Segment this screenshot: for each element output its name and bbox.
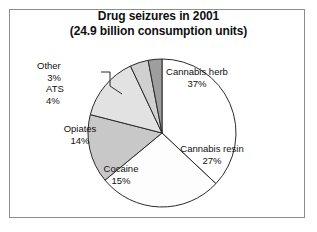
pie-label-cannabis-herb: Cannabis herb 37% — [162, 66, 232, 89]
pie-label-ats-name: ATS — [46, 83, 92, 95]
pie-label-opiates-value: 14% — [48, 135, 112, 147]
pie-label-cocaine: Cocaine 15% — [90, 163, 152, 186]
pie-label-opiates: Opiates 14% — [48, 123, 112, 146]
pie-label-cannabis-resin: Cannabis resin 27% — [177, 143, 247, 166]
pie-label-cannabis-resin-value: 27% — [177, 155, 247, 167]
pie-label-other-value: 3% — [37, 72, 71, 84]
pie-label-cannabis-herb-name: Cannabis herb — [162, 66, 232, 78]
pie-label-other: Other 3% — [37, 60, 93, 83]
pie-label-opiates-name: Opiates — [48, 123, 112, 135]
pie-label-cannabis-herb-value: 37% — [162, 78, 232, 90]
pie-label-cocaine-value: 15% — [90, 175, 152, 187]
pie-label-ats-value: 4% — [46, 95, 92, 107]
pie-chart — [0, 0, 317, 232]
pie-label-cocaine-name: Cocaine — [90, 163, 152, 175]
pie-chart-svg — [0, 0, 317, 232]
pie-label-cannabis-resin-name: Cannabis resin — [177, 143, 247, 155]
pie-label-ats: ATS 4% — [46, 83, 92, 106]
pie-label-other-name: Other — [37, 60, 93, 72]
